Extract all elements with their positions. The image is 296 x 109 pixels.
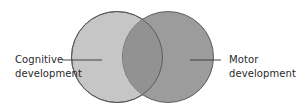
cognitive-development-label: Cognitive development — [15, 53, 82, 81]
cognitive-label-line1: Cognitive — [15, 53, 82, 67]
motor-development-label: Motor development — [229, 53, 296, 81]
motor-label-line1: Motor — [229, 53, 296, 67]
motor-label-line2: development — [229, 67, 296, 81]
cognitive-label-line2: development — [15, 67, 82, 81]
